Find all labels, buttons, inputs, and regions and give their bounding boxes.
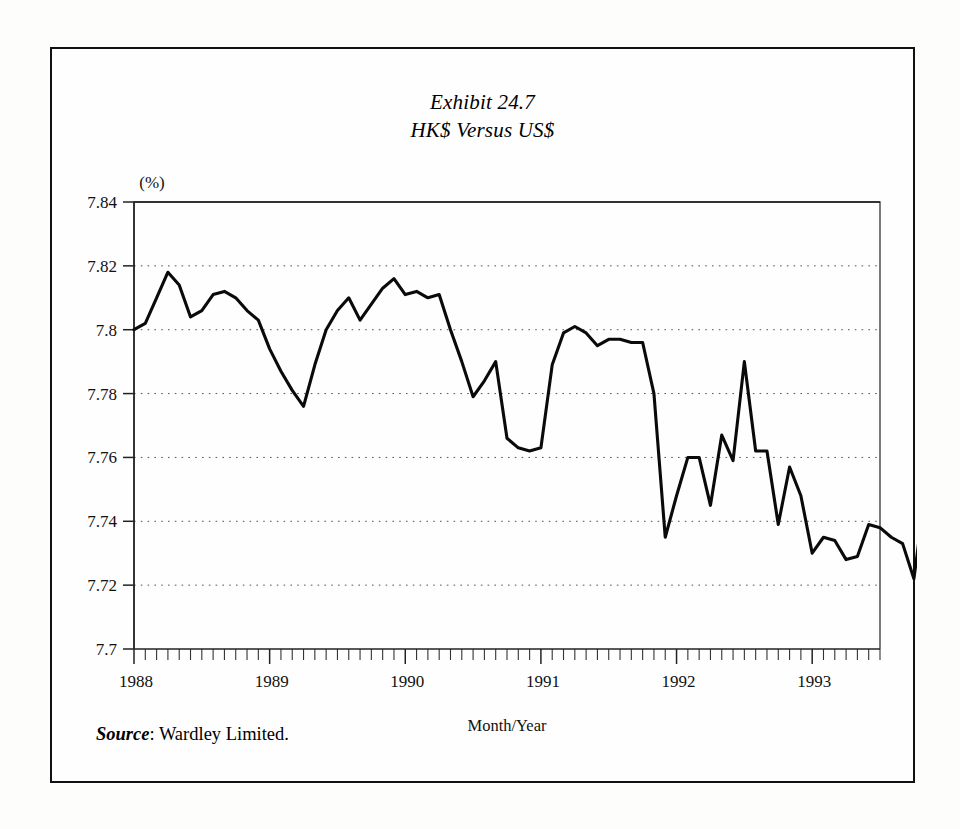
y-axis-labels: 7.77.727.747.767.787.87.827.84	[87, 193, 117, 659]
y-tick-label: 7.8	[96, 321, 117, 340]
source-text: Wardley Limited.	[159, 724, 289, 744]
source-label: Source	[96, 724, 149, 744]
series-line-0	[134, 272, 917, 579]
y-tick-label: 7.74	[87, 512, 117, 531]
y-tick-label: 7.76	[87, 448, 117, 467]
x-tick-label: 1990	[390, 672, 424, 691]
y-axis-ticks	[123, 202, 134, 649]
y-axis-unit-label: (%)	[139, 173, 164, 192]
line-chart: 7.77.727.747.767.787.87.827.84 198819891…	[52, 49, 917, 785]
y-tick-label: 7.72	[87, 576, 117, 595]
y-tick-label: 7.84	[87, 193, 117, 212]
x-axis-labels: 198819891990199119921993	[119, 672, 831, 691]
x-axis-title: Month/Year	[468, 716, 548, 735]
exhibit-frame: Exhibit 24.7 HK$ Versus US$ 7.77.727.747…	[50, 47, 915, 783]
y-tick-label: 7.7	[96, 640, 118, 659]
gridlines	[134, 266, 880, 585]
x-axis-ticks	[134, 649, 880, 664]
x-tick-label: 1989	[255, 672, 289, 691]
data-series	[134, 272, 917, 579]
x-tick-label: 1992	[662, 672, 696, 691]
y-tick-label: 7.82	[87, 257, 117, 276]
exhibit-page: Exhibit 24.7 HK$ Versus US$ 7.77.727.747…	[0, 0, 960, 829]
plot-border	[134, 202, 880, 649]
x-tick-label: 1993	[797, 672, 831, 691]
source-separator: :	[149, 724, 158, 744]
chart-area: 7.77.727.747.767.787.87.827.84 198819891…	[52, 49, 917, 785]
x-tick-label: 1991	[526, 672, 560, 691]
y-tick-label: 7.78	[87, 385, 117, 404]
x-tick-label: 1988	[119, 672, 153, 691]
source-note: Source: Wardley Limited.	[96, 724, 289, 745]
plot-frame	[134, 202, 880, 649]
